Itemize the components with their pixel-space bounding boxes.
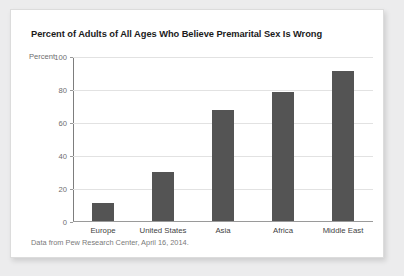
bar bbox=[92, 203, 114, 221]
bar bbox=[272, 92, 294, 221]
y-tick-label: 80 bbox=[33, 86, 67, 95]
x-category-label: Middle East bbox=[323, 226, 364, 235]
y-tick-label: 0 bbox=[33, 218, 67, 227]
x-category-label: Europe bbox=[90, 226, 115, 235]
bar bbox=[332, 71, 354, 221]
chart-card: Percent of Adults of All Ages Who Believ… bbox=[10, 9, 384, 258]
y-tick-mark bbox=[70, 123, 73, 124]
y-tick-label: 20 bbox=[33, 185, 67, 194]
source-note: Data from Pew Research Center, April 16,… bbox=[31, 238, 189, 247]
bar bbox=[152, 172, 174, 222]
x-category-label: United States bbox=[140, 226, 187, 235]
y-tick-mark bbox=[70, 57, 73, 58]
y-tick-label: 100 bbox=[33, 53, 67, 62]
bar bbox=[212, 110, 234, 221]
x-axis-line bbox=[73, 221, 373, 222]
y-tick-mark bbox=[70, 222, 73, 223]
y-tick-mark bbox=[70, 189, 73, 190]
plot-area: 020406080100EuropeUnited StatesAsiaAfric… bbox=[73, 57, 373, 222]
gridline bbox=[73, 90, 373, 91]
x-category-label: Asia bbox=[215, 226, 230, 235]
y-tick-label: 40 bbox=[33, 152, 67, 161]
y-tick-mark bbox=[70, 156, 73, 157]
y-tick-label: 60 bbox=[33, 119, 67, 128]
y-tick-mark bbox=[70, 90, 73, 91]
y-axis-line bbox=[73, 57, 74, 222]
page-title: Percent of Adults of All Ages Who Believ… bbox=[31, 29, 322, 39]
gridline bbox=[73, 57, 373, 58]
x-category-label: Africa bbox=[273, 226, 293, 235]
